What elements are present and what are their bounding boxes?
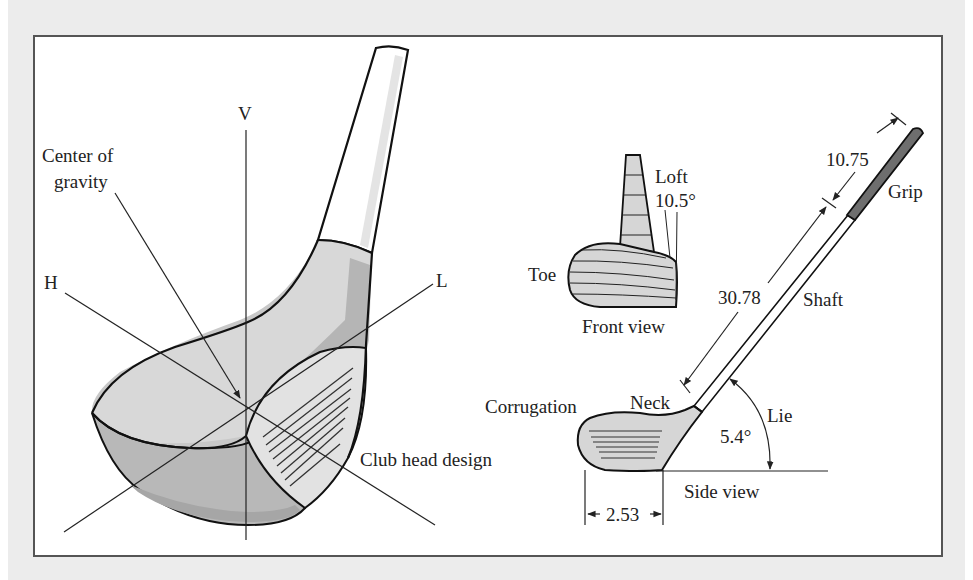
loft-angle-label: 10.5°	[655, 191, 696, 210]
lie-label: Lie	[767, 406, 792, 425]
shaft-label: Shaft	[803, 290, 843, 309]
shaft-length-label: 30.78	[718, 288, 761, 307]
side-head	[578, 406, 702, 471]
center-of-gravity-label-line2: gravity	[54, 172, 108, 191]
neck-label: Neck	[630, 393, 670, 412]
head-length-label: 2.53	[606, 505, 639, 524]
club-head-design-label: Club head design	[360, 450, 492, 469]
loft-label: Loft	[655, 167, 688, 186]
center-of-gravity-label-line1: Center of	[42, 146, 113, 165]
side-grip	[847, 128, 923, 220]
horizontal-axis-label: H	[44, 273, 58, 292]
side-view-caption: Side view	[684, 482, 759, 501]
grip-label: Grip	[888, 182, 923, 201]
longitudinal-axis-label: L	[436, 271, 448, 290]
grip-length-label: 10.75	[826, 150, 869, 169]
front-view-caption: Front view	[582, 317, 665, 336]
toe-label: Toe	[528, 265, 556, 284]
lie-angle-label: 5.4°	[720, 427, 751, 446]
vertical-axis-label: V	[238, 104, 252, 123]
side-shaft	[694, 215, 855, 412]
corrugation-label: Corrugation	[485, 397, 577, 416]
